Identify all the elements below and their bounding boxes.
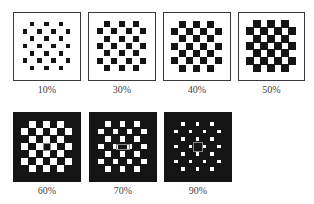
- panel-label: 60%: [7, 185, 87, 196]
- pattern-square: [59, 22, 64, 27]
- pattern-square: [21, 158, 28, 165]
- pattern-square: [181, 122, 185, 126]
- pattern-square: [119, 65, 125, 71]
- pattern-square: [66, 29, 71, 34]
- pattern-square: [179, 21, 186, 28]
- pattern-square: [126, 58, 132, 64]
- pattern-square: [43, 121, 50, 128]
- panel-label: 90%: [158, 185, 238, 196]
- pattern-square: [141, 144, 147, 150]
- pattern-square: [51, 29, 56, 34]
- pattern-square: [134, 136, 140, 142]
- pattern-square: [66, 58, 71, 63]
- pattern-square: [43, 136, 50, 143]
- pattern-square: [288, 27, 296, 35]
- pattern-square: [30, 36, 35, 41]
- pattern-square: [98, 144, 104, 150]
- pattern-square: [29, 136, 36, 143]
- pattern-square: [21, 128, 28, 135]
- center-marker-icon: [43, 143, 51, 151]
- pattern-square: [179, 65, 186, 72]
- pattern-square: [126, 28, 132, 34]
- pattern-square: [174, 145, 178, 149]
- center-marker-icon: [193, 142, 203, 152]
- pattern-square: [57, 150, 64, 157]
- pattern-square: [104, 50, 110, 56]
- pattern-square: [207, 65, 214, 72]
- pattern-square: [215, 28, 222, 35]
- pattern-square: [133, 65, 139, 71]
- pattern-square: [174, 130, 178, 134]
- pattern-square: [181, 152, 185, 156]
- pattern-panel-90: [164, 112, 232, 182]
- center-marker-icon: [116, 144, 130, 150]
- pattern-square: [57, 121, 64, 128]
- pattern-square: [29, 150, 36, 157]
- pattern-square: [59, 66, 64, 71]
- pattern-square: [140, 43, 146, 49]
- pattern-square: [186, 43, 193, 50]
- pattern-square: [174, 160, 178, 164]
- pattern-square: [59, 36, 64, 41]
- pattern-square: [105, 136, 111, 142]
- pattern-square: [37, 58, 42, 63]
- panel-label: 30%: [82, 84, 162, 95]
- pattern-square: [203, 160, 207, 164]
- pattern-square: [43, 165, 50, 172]
- pattern-square: [97, 43, 103, 49]
- pattern-square: [288, 57, 296, 65]
- pattern-square: [203, 145, 207, 149]
- pattern-square: [97, 58, 103, 64]
- pattern-square: [217, 130, 221, 134]
- pattern-square: [59, 51, 64, 56]
- pattern-panel-60: [13, 112, 81, 182]
- pattern-square: [111, 58, 117, 64]
- pattern-square: [44, 66, 49, 71]
- pattern-square: [200, 57, 207, 64]
- pattern-square: [193, 21, 200, 28]
- pattern-square: [119, 21, 125, 27]
- panel-label: 70%: [83, 185, 163, 196]
- pattern-square: [44, 51, 49, 56]
- panel-label: 40%: [157, 84, 237, 95]
- pattern-square: [267, 64, 275, 72]
- pattern-square: [253, 64, 261, 72]
- panel-label: 50%: [232, 84, 312, 95]
- pattern-square: [215, 43, 222, 50]
- pattern-panel-30: [88, 12, 156, 81]
- pattern-square: [134, 121, 140, 127]
- pattern-square: [133, 21, 139, 27]
- pattern-square: [126, 43, 132, 49]
- pattern-square: [57, 136, 64, 143]
- pattern-square: [104, 21, 110, 27]
- pattern-square: [120, 151, 126, 157]
- pattern-square: [50, 143, 57, 150]
- pattern-square: [43, 150, 50, 157]
- pattern-square: [66, 44, 71, 49]
- pattern-square: [171, 28, 178, 35]
- pattern-square: [134, 151, 140, 157]
- pattern-square: [37, 44, 42, 49]
- pattern-square: [210, 152, 214, 156]
- pattern-square: [57, 165, 64, 172]
- pattern-square: [30, 66, 35, 71]
- pattern-square: [23, 58, 28, 63]
- pattern-square: [133, 50, 139, 56]
- pattern-square: [51, 58, 56, 63]
- pattern-square: [196, 137, 200, 141]
- pattern-square: [186, 57, 193, 64]
- pattern-square: [171, 43, 178, 50]
- pattern-square: [120, 121, 126, 127]
- pattern-square: [210, 167, 214, 171]
- pattern-square: [120, 136, 126, 142]
- pattern-square: [207, 50, 214, 57]
- pattern-square: [105, 151, 111, 157]
- pattern-square: [179, 35, 186, 42]
- pattern-square: [200, 43, 207, 50]
- pattern-square: [203, 130, 207, 134]
- pattern-square: [281, 64, 289, 72]
- pattern-square: [29, 121, 36, 128]
- pattern-square: [111, 43, 117, 49]
- pattern-square: [196, 122, 200, 126]
- pattern-square: [210, 122, 214, 126]
